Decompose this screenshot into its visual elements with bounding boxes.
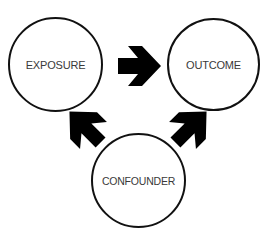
outcome-label: OUTCOME	[186, 59, 241, 71]
outcome-node: OUTCOME	[167, 18, 260, 111]
exposure-node: EXPOSURE	[8, 17, 103, 112]
confounder-label: CONFOUNDER	[102, 175, 175, 187]
arrow-exposure-to-outcome-icon	[118, 46, 161, 86]
exposure-label: EXPOSURE	[26, 59, 86, 71]
causal-diagram: EXPOSURE OUTCOME CONFOUNDER	[0, 0, 276, 231]
confounder-node: CONFOUNDER	[91, 133, 186, 228]
